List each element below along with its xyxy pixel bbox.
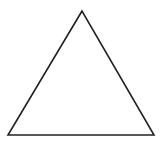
diagram-canvas <box>0 0 164 142</box>
triangle-diagram <box>0 0 164 142</box>
triangle-shape <box>8 11 154 135</box>
